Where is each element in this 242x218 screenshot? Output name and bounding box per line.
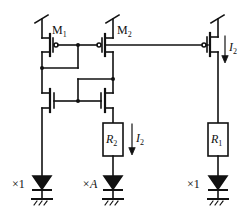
label-m1-main: M [52, 23, 63, 37]
current-right-sub: 2 [233, 47, 237, 56]
current-arrow-middle [129, 124, 135, 155]
label-r2: R2 [106, 133, 117, 148]
label-m1-sub: 1 [63, 30, 67, 39]
transistor-n1-nmos [42, 89, 78, 112]
label-d1-multiplier: ×1 [12, 178, 25, 190]
transistor-n2-nmos [78, 89, 113, 112]
label-m2: M2 [117, 24, 132, 39]
transistor-m2-pmos [78, 34, 208, 56]
label-current-middle: I2 [136, 132, 144, 147]
current-middle-sub: 2 [140, 138, 144, 147]
left-branch [32, 15, 80, 205]
label-m2-sub: 2 [128, 30, 132, 39]
r1-sub: 1 [218, 139, 222, 148]
diode-d1 [32, 176, 52, 205]
r2-sub: 2 [113, 139, 117, 148]
pmos-bubble [202, 43, 206, 47]
transistor-m3-pmos [202, 33, 218, 56]
label-d3-multiplier: ×1 [187, 178, 200, 190]
label-r1: R1 [211, 133, 222, 148]
label-d2-multiplier: ×A [82, 178, 97, 190]
label-m2-main: M [117, 23, 128, 37]
current-arrow-right [222, 36, 228, 63]
diode-d2 [103, 176, 123, 205]
right-branch [202, 15, 228, 205]
label-current-right: I2 [229, 41, 237, 56]
label-m1: M1 [52, 24, 67, 39]
diode-d3 [208, 176, 228, 205]
